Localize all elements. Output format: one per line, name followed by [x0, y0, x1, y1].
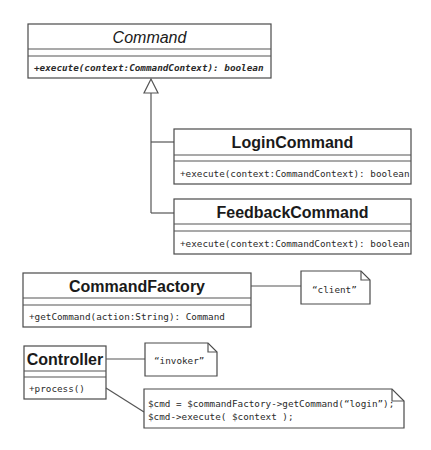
note-code[interactable]: $cmd = $commandFactory->getCommand(“logi…	[144, 389, 404, 428]
note-code-line-1: $cmd = $commandFactory->getCommand(“logi…	[148, 398, 394, 409]
note-invoker[interactable]: “invoker”	[145, 343, 217, 376]
class-controller[interactable]: Controller +process()	[24, 346, 106, 399]
generalization-connector	[144, 79, 174, 213]
uml-diagram-canvas: Command +execute(context:CommandContext)…	[0, 0, 431, 450]
class-command[interactable]: Command +execute(context:CommandContext)…	[28, 24, 271, 78]
class-feedback-command-operation: +execute(context:CommandContext): boolea…	[180, 238, 410, 249]
note-client-text: “client”	[312, 284, 357, 295]
class-feedback-command[interactable]: FeedbackCommand +execute(context:Command…	[174, 199, 411, 254]
class-login-command-operation: +execute(context:CommandContext): boolea…	[180, 168, 410, 179]
class-login-command-name: LoginCommand	[232, 134, 354, 151]
note-code-line-2: $cmd->execute( $context );	[148, 411, 294, 422]
class-controller-operation: +process()	[29, 383, 85, 394]
class-feedback-command-name: FeedbackCommand	[216, 204, 368, 221]
class-command-operation: +execute(context:CommandContext): boolea…	[34, 62, 264, 73]
class-command-factory[interactable]: CommandFactory +getCommand(action:String…	[23, 273, 251, 327]
class-command-factory-name: CommandFactory	[69, 278, 205, 295]
note-invoker-text: “invoker”	[154, 355, 204, 366]
class-command-factory-operation: +getCommand(action:String): Command	[29, 311, 225, 322]
class-command-name: Command	[113, 29, 188, 46]
code-note-connector	[106, 388, 144, 412]
inheritance-triangle-icon	[144, 79, 158, 93]
class-login-command[interactable]: LoginCommand +execute(context:CommandCon…	[174, 129, 411, 184]
note-client[interactable]: “client”	[301, 271, 370, 304]
class-controller-name: Controller	[27, 351, 103, 368]
